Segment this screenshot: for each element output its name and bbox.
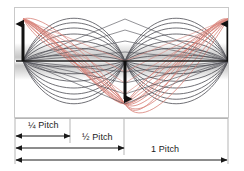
- quarter-pitch-label: ¼ Pitch: [28, 120, 59, 130]
- diagram-root: ¼ Pitch ½ Pitch 1 Pitch: [0, 0, 244, 171]
- one-pitch-label: 1 Pitch: [151, 144, 179, 154]
- standing-wave-svg: [15, 8, 228, 117]
- half-pitch-label: ½ Pitch: [82, 132, 113, 142]
- wave-diagram-panel: [14, 7, 229, 118]
